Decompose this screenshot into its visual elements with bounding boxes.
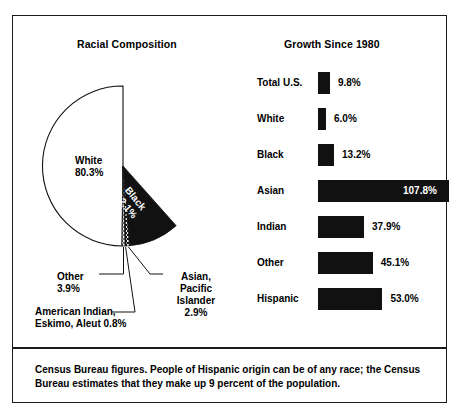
bar-row: Hispanic53.0% bbox=[257, 286, 447, 314]
callout-line-asian bbox=[129, 247, 164, 274]
footer-note: Census Bureau figures. People of Hispani… bbox=[35, 363, 425, 391]
bar-rect bbox=[318, 288, 382, 310]
bar-rect bbox=[318, 108, 326, 130]
bar-value-label: 107.8% bbox=[403, 185, 437, 196]
bar-row: White6.0% bbox=[257, 106, 447, 134]
bar-rect bbox=[318, 72, 330, 94]
bar-row: Black13.2% bbox=[257, 142, 447, 170]
bar-value-label: 6.0% bbox=[334, 113, 357, 124]
bar-category-label: White bbox=[257, 113, 313, 124]
bar-value-label: 37.9% bbox=[372, 221, 400, 232]
callout-line-other bbox=[99, 247, 124, 274]
bar-category-label: Total U.S. bbox=[257, 77, 313, 88]
bar-row: Asian107.8% bbox=[257, 178, 447, 206]
footer-divider bbox=[13, 347, 446, 349]
bar-rect bbox=[318, 252, 373, 274]
bar-row: Other45.1% bbox=[257, 250, 447, 278]
bar-rect bbox=[318, 144, 334, 166]
bar-category-label: Asian bbox=[257, 185, 313, 196]
bar-rect bbox=[318, 216, 364, 238]
pie-label-asian-pacific-islander: Asian, Pacific Islander 2.9% bbox=[165, 271, 227, 319]
pie-label-american-indian: American Indian, Eskimo, Aleut 0.8% bbox=[35, 306, 126, 330]
bar-row: Indian37.9% bbox=[257, 214, 447, 242]
bar-chart-title: Growth Since 1980 bbox=[284, 38, 380, 50]
bar-value-label: 9.8% bbox=[338, 77, 361, 88]
bar-category-label: Other bbox=[257, 257, 313, 268]
bar-value-label: 45.1% bbox=[381, 257, 409, 268]
bar-category-label: Black bbox=[257, 149, 313, 160]
bar-value-label: 13.2% bbox=[342, 149, 370, 160]
bar-row: Total U.S.9.8% bbox=[257, 70, 447, 98]
figure-frame: Racial Composition Growth Since 1980 bbox=[12, 15, 447, 403]
bar-category-label: Indian bbox=[257, 221, 313, 232]
pie-label-other: Other 3.9% bbox=[57, 271, 84, 295]
pie-label-white: White 80.3% bbox=[75, 155, 103, 179]
pie-chart: White 80.3% Black 12.1% Other 3.9% Ameri… bbox=[13, 16, 253, 346]
bar-value-label: 53.0% bbox=[390, 293, 418, 304]
bar-chart: Total U.S.9.8%White6.0%Black13.2%Asian10… bbox=[257, 70, 447, 330]
bar-category-label: Hispanic bbox=[257, 293, 313, 304]
